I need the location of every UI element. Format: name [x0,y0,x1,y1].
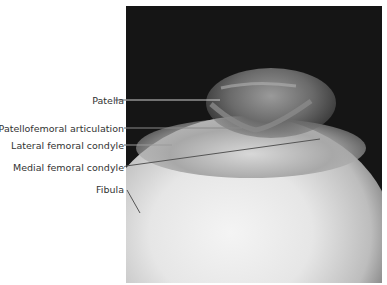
label-patellofemoral-articulation: Patellofemoral articulation [0,124,124,134]
label-fibula: Fibula [96,185,124,195]
label-lateral-femoral-condyle: Lateral femoral condyle [11,141,124,151]
label-patella: Patella [92,96,124,106]
knee-xray-image [126,6,382,283]
label-medial-femoral-condyle: Medial femoral condyle [13,163,124,173]
